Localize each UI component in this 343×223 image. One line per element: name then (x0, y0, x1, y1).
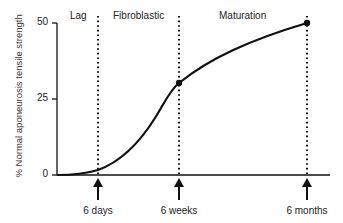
wound-healing-chart: % Normal aponeurosis tensile strength 50… (0, 0, 343, 223)
phase-label-fibroblastic: Fibroblastic (113, 10, 164, 21)
y-tick-25: 25 (28, 92, 48, 103)
y-tick-50: 50 (28, 16, 48, 27)
arrow-up-icon (93, 178, 103, 200)
x-marker-6-months: 6 months (272, 205, 342, 216)
arrow-up-icon (174, 178, 184, 200)
chart-canvas (0, 0, 343, 223)
x-marker-6-weeks: 6 weeks (144, 205, 214, 216)
y-axis-label: % Normal aponeurosis tensile strength (13, 18, 24, 178)
phase-label-lag: Lag (70, 10, 87, 21)
data-point-6-months (304, 20, 310, 26)
x-marker-6-days: 6 days (63, 205, 133, 216)
phase-label-maturation: Maturation (219, 10, 266, 21)
data-point-6-weeks (176, 80, 182, 86)
y-tick-0: 0 (28, 168, 48, 179)
strength-curve (57, 23, 307, 175)
arrow-up-icon (302, 178, 312, 200)
